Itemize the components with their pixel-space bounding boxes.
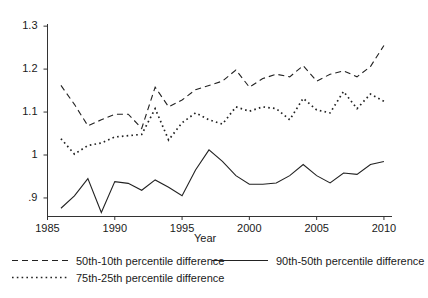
legend-row: 75th-25th percentile difference	[12, 269, 422, 286]
chart-container: .911.11.21.3 198519901995200020052010 Ye…	[0, 0, 428, 298]
legend-row: 50th-10th percentile difference 90th-50t…	[12, 252, 422, 269]
series-line	[61, 150, 384, 213]
x-axis-tick-label: 1990	[95, 222, 135, 234]
legend-swatch-dotted	[12, 272, 68, 283]
y-axis-tick-label: 1.2	[6, 62, 38, 74]
legend-label: 50th-10th percentile difference	[76, 255, 224, 267]
data-series-group	[61, 45, 384, 212]
x-axis-tick-label: 2005	[297, 222, 337, 234]
legend-swatch-solid	[212, 255, 268, 266]
axes	[44, 24, 393, 220]
x-axis-title: Year	[194, 232, 216, 244]
series-line	[61, 45, 384, 128]
x-axis-tick-label: 1985	[28, 222, 68, 234]
legend-swatch-dashed	[12, 255, 68, 266]
legend-item-50th-10th: 50th-10th percentile difference	[12, 255, 212, 267]
x-axis-tick-label: 2010	[364, 222, 404, 234]
legend-item-90th-50th: 90th-50th percentile difference	[212, 255, 424, 267]
y-axis-ticks	[44, 26, 48, 198]
y-axis-tick-label: .9	[6, 191, 38, 203]
y-axis-tick-label: 1.3	[6, 19, 38, 31]
series-line	[61, 91, 384, 154]
chart-legend: 50th-10th percentile difference 90th-50t…	[12, 252, 422, 286]
x-axis-tick-label: 2000	[229, 222, 269, 234]
legend-label: 75th-25th percentile difference	[76, 272, 224, 284]
legend-label: 90th-50th percentile difference	[276, 255, 424, 267]
legend-item-75th-25th: 75th-25th percentile difference	[12, 272, 212, 284]
y-axis-tick-label: 1	[6, 148, 38, 160]
y-axis-tick-label: 1.1	[6, 105, 38, 117]
